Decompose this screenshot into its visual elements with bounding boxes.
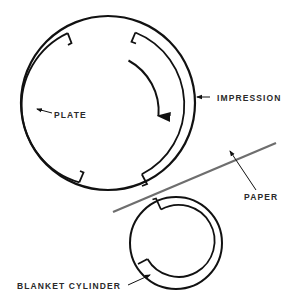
- printing-cylinders-diagram: PLATE IMPRESSION PAPER BLANKET CYLINDER: [0, 0, 294, 306]
- plate-gap-top-left: [68, 33, 72, 45]
- plate-inner-right-arc: [135, 33, 184, 175]
- blanket-cylinder-outer: [130, 197, 222, 289]
- impression-label: IMPRESSION: [217, 93, 281, 103]
- plate-impression-cylinder: [21, 16, 195, 190]
- paper-label: PAPER: [244, 192, 278, 202]
- plate-leader-arrow: [37, 109, 52, 113]
- blanket-cylinder: [130, 197, 222, 289]
- rotation-arrow-icon: [129, 61, 159, 117]
- blanket-gap-bottom: [138, 259, 148, 264]
- plate-gap-bottom-left: [79, 171, 83, 182]
- blanket-inner-arc: [148, 205, 215, 277]
- plate-gap-top-right: [132, 33, 137, 44]
- blanket-cylinder-label: BLANKET CYLINDER: [17, 281, 121, 291]
- blanket-leader-arrow: [128, 275, 150, 285]
- plate-inner-left-arc: [22, 33, 80, 182]
- plate-label: PLATE: [54, 110, 87, 120]
